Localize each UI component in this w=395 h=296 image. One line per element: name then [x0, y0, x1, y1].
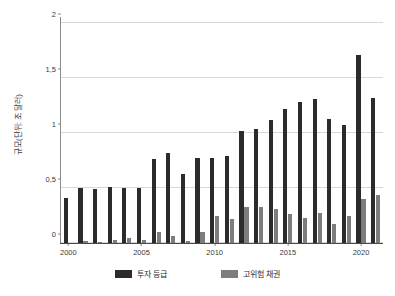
- bar[interactable]: [274, 209, 278, 243]
- legend-label: 투자 등급: [137, 268, 167, 279]
- bar-group: [78, 23, 87, 243]
- bar-group: [108, 23, 117, 243]
- bar-group: [313, 23, 322, 243]
- bar[interactable]: [210, 158, 214, 243]
- bar-group: [283, 23, 292, 243]
- bar[interactable]: [342, 125, 346, 243]
- x-axis-tick: 2000: [60, 243, 77, 257]
- plot-inner: 00,511,52 20002005201020152020: [61, 23, 383, 243]
- legend-swatch: [115, 270, 132, 278]
- legend-label: 고위험 채권: [243, 268, 280, 279]
- bar[interactable]: [298, 102, 302, 243]
- x-axis-line: [60, 243, 383, 245]
- bar[interactable]: [108, 187, 112, 243]
- bar[interactable]: [239, 131, 243, 243]
- bar[interactable]: [332, 224, 336, 243]
- bar[interactable]: [347, 216, 351, 244]
- chart-legend: 투자 등급고위험 채권: [0, 268, 395, 279]
- bar[interactable]: [313, 99, 317, 243]
- bar[interactable]: [230, 219, 234, 243]
- bar[interactable]: [371, 98, 375, 243]
- legend-item[interactable]: 투자 등급: [115, 268, 167, 279]
- bar-group: [298, 23, 307, 243]
- x-axis-tick-label: 2020: [353, 248, 370, 257]
- y-axis-tick-mark: [58, 14, 61, 15]
- x-axis-tick: 2010: [206, 243, 223, 257]
- bar[interactable]: [376, 195, 380, 243]
- x-axis-tick: 2020: [353, 243, 370, 257]
- bar-group: [225, 23, 234, 243]
- y-axis-line: [60, 17, 61, 243]
- bar[interactable]: [122, 188, 126, 243]
- bar-group: [356, 23, 365, 243]
- bar[interactable]: [283, 109, 287, 243]
- bar-group: [181, 23, 190, 243]
- bar[interactable]: [64, 198, 68, 243]
- y-axis-tick: 1: [42, 120, 61, 129]
- bar-group: [254, 23, 263, 243]
- bar[interactable]: [288, 214, 292, 243]
- bar[interactable]: [254, 129, 258, 243]
- bar-group: [152, 23, 161, 243]
- bar[interactable]: [327, 119, 331, 243]
- bar-group: [239, 23, 248, 243]
- chart-figure: 규모(단위: 조 달러) 00,511,52 20002005201020152…: [0, 0, 395, 296]
- bar-group: [327, 23, 336, 243]
- y-axis-tick: 2: [42, 10, 61, 19]
- y-axis-tick: 0: [42, 230, 61, 239]
- bar[interactable]: [93, 189, 97, 243]
- bar-group: [122, 23, 131, 243]
- bar[interactable]: [303, 218, 307, 243]
- bar-group: [195, 23, 204, 243]
- y-axis-tick-label: 2: [42, 10, 56, 19]
- bar[interactable]: [318, 213, 322, 243]
- bar[interactable]: [215, 216, 219, 244]
- bar[interactable]: [269, 120, 273, 243]
- bar[interactable]: [259, 207, 263, 243]
- x-axis-tick-label: 2015: [280, 248, 297, 257]
- y-axis-tick-label: 1,5: [42, 65, 56, 74]
- legend-item[interactable]: 고위험 채권: [221, 268, 280, 279]
- y-axis-tick-label: 0: [42, 230, 56, 239]
- bar[interactable]: [157, 232, 161, 243]
- y-axis-tick: 1,5: [42, 65, 61, 74]
- y-axis-tick-label: 0,5: [42, 175, 56, 184]
- y-axis-title-container: 규모(단위: 조 달러): [0, 0, 34, 248]
- bar-group: [210, 23, 219, 243]
- bar[interactable]: [195, 158, 199, 243]
- bar[interactable]: [166, 153, 170, 243]
- bar-group: [342, 23, 351, 243]
- bar[interactable]: [225, 156, 229, 243]
- bar[interactable]: [152, 159, 156, 243]
- bar-group: [371, 23, 380, 243]
- bar[interactable]: [356, 55, 360, 243]
- bar[interactable]: [200, 232, 204, 243]
- plot-area: 00,511,52 20002005201020152020: [61, 23, 383, 243]
- y-axis-title: 규모(단위: 조 달러): [12, 94, 23, 155]
- x-axis-tick-label: 2010: [206, 248, 223, 257]
- x-axis-tick: 2015: [280, 243, 297, 257]
- x-axis-tick-label: 2000: [60, 248, 77, 257]
- y-axis-tick-label: 1: [42, 120, 56, 129]
- bar-group: [269, 23, 278, 243]
- x-axis-tick-label: 2005: [133, 248, 150, 257]
- legend-swatch: [221, 270, 238, 278]
- y-axis-tick: 0,5: [42, 175, 61, 184]
- bar-group: [137, 23, 146, 243]
- bar-group: [64, 23, 73, 243]
- bar[interactable]: [361, 199, 365, 243]
- bar[interactable]: [78, 188, 82, 243]
- bar[interactable]: [181, 174, 185, 243]
- bar-group: [93, 23, 102, 243]
- x-axis-tick: 2005: [133, 243, 150, 257]
- bar[interactable]: [244, 207, 248, 243]
- bar-group: [166, 23, 175, 243]
- bar[interactable]: [137, 188, 141, 243]
